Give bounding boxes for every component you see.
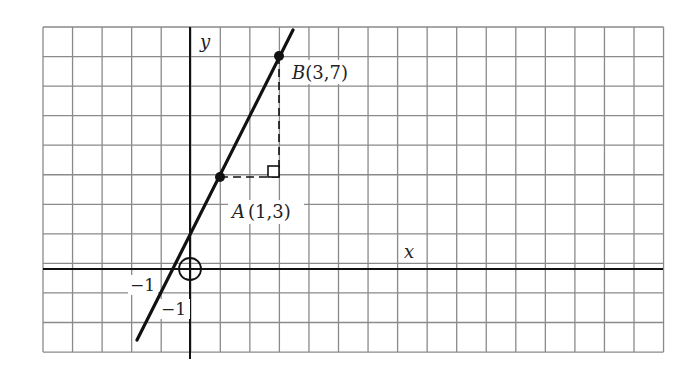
x-tick-neg1: −1 bbox=[130, 275, 155, 295]
point-a-coords: (1,3) bbox=[248, 201, 291, 222]
point-b bbox=[274, 51, 284, 61]
y-tick-neg1: −1 bbox=[161, 299, 186, 319]
x-axis-label: x bbox=[404, 241, 414, 262]
point-b-coords: (3,7) bbox=[305, 62, 348, 83]
point-a-name: A bbox=[230, 201, 245, 222]
right-angle-marker bbox=[268, 166, 279, 177]
point-a-label: A(1,3) bbox=[230, 201, 291, 222]
y-axis-label: y bbox=[199, 31, 211, 52]
point-b-name: B bbox=[291, 62, 305, 83]
coordinate-plane: y x B(3,7) A(1,3) −1 −1 bbox=[0, 0, 688, 382]
point-b-label: B(3,7) bbox=[291, 62, 348, 83]
point-a bbox=[215, 172, 225, 182]
